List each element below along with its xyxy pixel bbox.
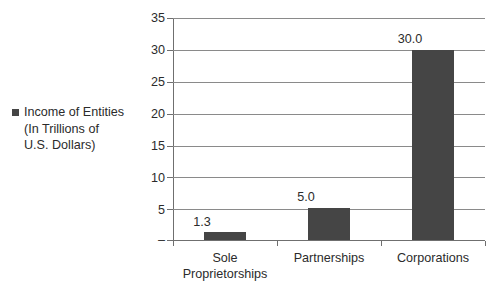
- legend-entry: Income of Entities (In Trillions of U.S.…: [12, 104, 152, 154]
- y-tick-label-10: 10: [137, 172, 165, 185]
- bar-value-sole-proprietorships: 1.3: [174, 216, 230, 229]
- bar-chart: Income of Entities (In Trillions of U.S.…: [0, 0, 501, 294]
- x-category-label-line-2: Proprietorships: [173, 266, 277, 282]
- x-category-label-corporations: Corporations: [381, 250, 485, 266]
- x-category-label-partnerships: Partnerships: [277, 250, 381, 266]
- y-tick-label-30: 30: [137, 44, 165, 57]
- chart-legend: Income of Entities (In Trillions of U.S.…: [12, 104, 152, 154]
- x-tick-mark-left: [173, 241, 174, 246]
- legend-label-line-2: (In Trillions of: [24, 121, 124, 138]
- legend-label-line-1: Income of Entities: [24, 104, 124, 121]
- x-tick-mark-right: [485, 241, 486, 246]
- x-category-label-line-1: Corporations: [381, 250, 485, 266]
- legend-label-line-3: U.S. Dollars): [24, 137, 124, 154]
- bar-value-corporations: 30.0: [382, 33, 438, 46]
- y-axis-tick-labels: 35 30 25 20 15 10 5 –: [136, 0, 165, 294]
- x-category-label-line-1: Sole: [173, 250, 277, 266]
- x-category-label-line-1: Partnerships: [277, 250, 381, 266]
- legend-label: Income of Entities (In Trillions of U.S.…: [24, 104, 124, 154]
- gridline-35: [173, 18, 485, 19]
- y-tick-label-0: –: [137, 234, 165, 247]
- bar-corporations: [412, 50, 454, 240]
- plot-area: [173, 18, 485, 240]
- y-tick-label-35: 35: [137, 12, 165, 25]
- y-tick-label-25: 25: [137, 76, 165, 89]
- y-tick-label-15: 15: [137, 140, 165, 153]
- x-axis-line: [173, 240, 485, 241]
- y-tick-label-5: 5: [137, 204, 165, 217]
- bar-value-partnerships: 5.0: [278, 191, 334, 204]
- bar-sole-proprietorships: [204, 232, 246, 240]
- y-tick-label-20: 20: [137, 108, 165, 121]
- x-tick-mark-2: [381, 241, 382, 246]
- x-tick-mark-1: [277, 241, 278, 246]
- bar-partnerships: [308, 208, 350, 240]
- legend-square-icon: [12, 109, 19, 116]
- x-category-label-sole-proprietorships: Sole Proprietorships: [173, 250, 277, 282]
